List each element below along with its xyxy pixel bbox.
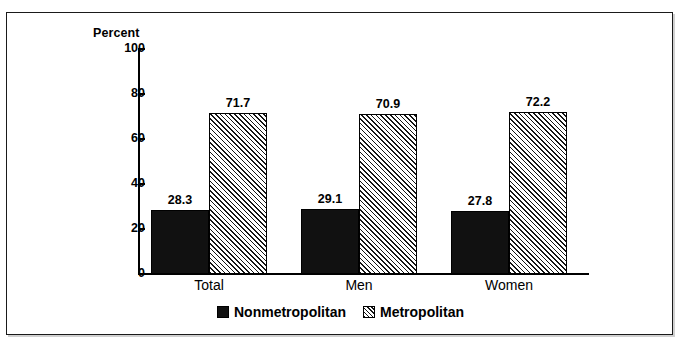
bar-value-label: 27.8 <box>451 194 509 208</box>
bar-women-metropolitan <box>509 112 567 274</box>
y-axis-tick-label: 60 <box>111 131 145 145</box>
y-axis-tick-label: 80 <box>111 86 145 100</box>
hatched-swatch <box>363 306 375 318</box>
x-axis-category-label-total: Total <box>149 277 269 293</box>
bar-men-metropolitan <box>359 114 417 274</box>
bar-value-label: 70.9 <box>359 97 417 111</box>
y-axis-tick-label: 100 <box>111 41 145 55</box>
bar-value-label: 71.7 <box>209 96 267 110</box>
x-axis-category-label-women: Women <box>449 277 569 293</box>
solid-black-swatch <box>217 306 229 318</box>
plot-area: Percent 020406080100 28.371.729.170.927.… <box>7 13 674 336</box>
y-axis-tick-label: 20 <box>111 221 145 235</box>
legend-item-nonmetropolitan: Nonmetropolitan <box>217 304 346 320</box>
y-axis-line <box>138 49 140 274</box>
bar-total-nonmetropolitan <box>151 210 209 274</box>
bar-women-nonmetropolitan <box>451 211 509 274</box>
cut-off-caption-above-figure <box>18 0 618 3</box>
y-axis-tick-label: 40 <box>111 176 145 190</box>
figure-frame: Percent 020406080100 28.371.729.170.927.… <box>6 12 673 335</box>
bar-total-metropolitan <box>209 113 267 274</box>
chart-legend: NonmetropolitanMetropolitan <box>7 304 674 320</box>
y-axis-tick-label: 0 <box>111 266 145 280</box>
bar-value-label: 72.2 <box>509 95 567 109</box>
legend-label: Metropolitan <box>380 304 464 320</box>
bar-men-nonmetropolitan <box>301 209 359 274</box>
x-axis-category-label-men: Men <box>299 277 419 293</box>
bar-value-label: 28.3 <box>151 193 209 207</box>
y-axis-title: Percent <box>93 26 140 40</box>
legend-item-metropolitan: Metropolitan <box>363 304 464 320</box>
bar-value-label: 29.1 <box>301 192 359 206</box>
legend-label: Nonmetropolitan <box>234 304 346 320</box>
